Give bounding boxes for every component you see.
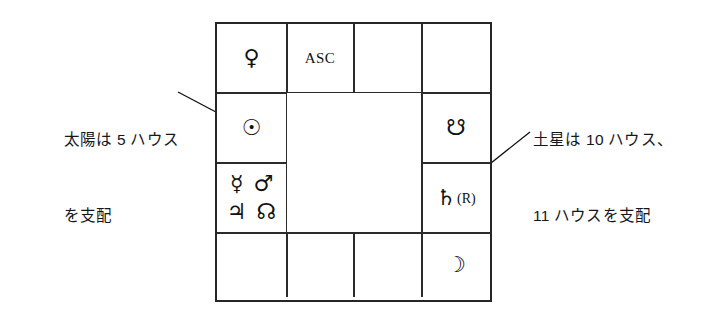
rahu-icon: ☊: [257, 199, 277, 224]
mars-icon: ♂: [253, 171, 273, 196]
vedic-birth-chart: ♀ ASC ☉ ☋: [215, 22, 492, 302]
chart-cell-r3c1-empty[interactable]: [287, 233, 353, 297]
chart-cell-r0c0-venus[interactable]: ♀: [217, 24, 286, 92]
chart-figure: 太陽は 5 ハウス を支配 土星は 10 ハウス、 11 ハウスを支配: [0, 0, 723, 322]
glyph-row-upper: ☿ ♂: [225, 170, 278, 197]
venus-icon: ♀: [243, 45, 259, 70]
ketu-icon: ☋: [446, 115, 466, 140]
retrograde-marker: (R): [457, 192, 476, 206]
chart-cell-r0c3-empty[interactable]: [422, 24, 490, 92]
annotation-left-line-1: 太陽は 5 ハウス: [64, 127, 179, 152]
moon-icon: ☽: [446, 252, 466, 277]
annotation-left-line-2: を支配: [64, 203, 179, 228]
chart-cell-r2c0-mercury-mars-jupiter-rahu[interactable]: ☿ ♂ ♃ ☊: [217, 163, 286, 232]
saturn-icon: ♄: [436, 185, 456, 210]
annotation-right-line-2: 11 ハウスを支配: [533, 203, 673, 228]
chart-cell-r3c0-empty[interactable]: [217, 233, 286, 297]
chart-grid: ♀ ASC ☉ ☋: [217, 24, 490, 300]
jupiter-icon: ♃: [227, 199, 247, 224]
annotation-right-saturn-rulership: 土星は 10 ハウス、 11 ハウスを支配: [533, 77, 673, 278]
sun-icon: ☉: [242, 115, 262, 140]
mercury-icon: ☿: [230, 171, 244, 196]
ascendant-label: ASC: [305, 51, 335, 66]
chart-cell-r0c1-ascendant[interactable]: ASC: [287, 24, 353, 92]
annotation-left-sun-rulership: 太陽は 5 ハウス を支配: [64, 77, 179, 278]
chart-cell-r0c2-empty[interactable]: [354, 24, 421, 92]
annotation-right-line-1: 土星は 10 ハウス、: [533, 127, 673, 152]
chart-cell-r3c3-moon[interactable]: ☽: [422, 233, 490, 297]
glyph-row-lower: ♃ ☊: [222, 198, 281, 225]
chart-center-blank: [287, 93, 421, 232]
chart-cell-r3c2-empty[interactable]: [354, 233, 421, 297]
chart-cell-r2c3-saturn-retrograde[interactable]: ♄ (R): [422, 163, 490, 232]
chart-cell-r1c3-ketu[interactable]: ☋: [422, 93, 490, 162]
chart-cell-r1c0-sun[interactable]: ☉: [217, 93, 286, 162]
